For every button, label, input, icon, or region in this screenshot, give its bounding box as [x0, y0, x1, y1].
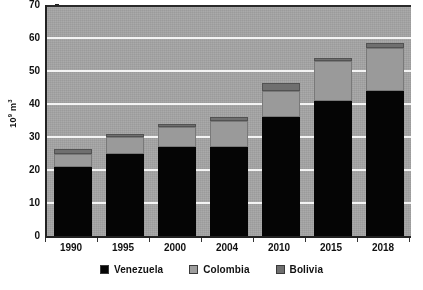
- x-tick-label: 2004: [208, 242, 246, 253]
- bar-segment-colombia: [262, 91, 300, 117]
- bar-column: [366, 5, 404, 236]
- bar-column: [54, 5, 92, 236]
- legend-swatch-icon: [100, 265, 109, 274]
- legend-swatch-icon: [276, 265, 285, 274]
- x-tick-label: 2015: [312, 242, 350, 253]
- bar-group: [47, 5, 411, 236]
- bar-segment-colombia: [366, 48, 404, 91]
- legend-label: Colombia: [203, 264, 249, 275]
- bar-segment-venezuela: [366, 91, 404, 236]
- x-tick-label: 2010: [260, 242, 298, 253]
- y-tick-label: 20: [14, 164, 40, 175]
- bar-column: [314, 5, 352, 236]
- bar-segment-venezuela: [210, 147, 248, 236]
- bar-segment-venezuela: [54, 167, 92, 236]
- bar-column: [158, 5, 196, 236]
- legend-swatch-icon: [189, 265, 198, 274]
- y-tick-label: 40: [14, 98, 40, 109]
- bar-segment-venezuela: [158, 147, 196, 236]
- bar-segment-colombia: [210, 121, 248, 147]
- x-tick-label: 2018: [364, 242, 402, 253]
- legend-label: Venezuela: [114, 264, 163, 275]
- y-axis-ticks: 010203040506070: [14, 4, 40, 236]
- bar-segment-venezuela: [262, 117, 300, 236]
- stacked-bar-chart: 109 m3 010203040506070 19901995200020042…: [0, 0, 423, 290]
- legend-item-bolivia[interactable]: Bolivia: [276, 264, 324, 275]
- bar-column: [106, 5, 144, 236]
- chart-legend: VenezuelaColombiaBolivia: [0, 264, 423, 275]
- bar-segment-bolivia: [262, 83, 300, 91]
- y-tick-label: 10: [14, 197, 40, 208]
- bar-segment-venezuela: [106, 154, 144, 237]
- y-axis-title-unit-exponent: 3: [7, 99, 13, 103]
- y-tick-label: 50: [14, 65, 40, 76]
- x-tick-label: 1990: [52, 242, 90, 253]
- legend-label: Bolivia: [290, 264, 324, 275]
- y-tick-label: 70: [14, 0, 40, 10]
- bar-segment-venezuela: [314, 101, 352, 236]
- bar-segment-colombia: [54, 154, 92, 167]
- legend-item-venezuela[interactable]: Venezuela: [100, 264, 163, 275]
- legend-item-colombia[interactable]: Colombia: [189, 264, 249, 275]
- x-tick-label: 1995: [104, 242, 142, 253]
- bar-segment-colombia: [158, 127, 196, 147]
- y-tick-label: 0: [14, 230, 40, 241]
- bar-segment-colombia: [314, 61, 352, 101]
- y-tick-label: 30: [14, 131, 40, 142]
- y-axis-title-exponent: 9: [7, 114, 13, 118]
- x-tick-mark: [409, 238, 410, 242]
- plot-top-rule: [47, 5, 411, 7]
- y-tick-label: 60: [14, 32, 40, 43]
- x-axis-labels: 1990199520002004201020152018: [45, 238, 409, 256]
- bar-segment-colombia: [106, 137, 144, 154]
- bar-column: [210, 5, 248, 236]
- plot-area: [45, 5, 411, 238]
- bar-column: [262, 5, 300, 236]
- x-tick-label: 2000: [156, 242, 194, 253]
